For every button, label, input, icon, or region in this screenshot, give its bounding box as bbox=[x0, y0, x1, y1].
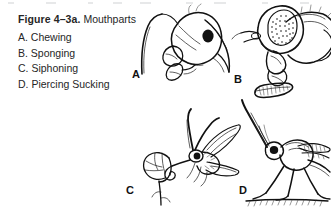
list-item: D. Piercing Sucking bbox=[18, 77, 142, 93]
figure-subject: Mouthparts bbox=[83, 13, 136, 25]
butterfly-siphoning-illustration bbox=[133, 108, 241, 208]
figure-title: Figure 4–3a. Mouthparts bbox=[18, 13, 142, 26]
fly-head-sponging-illustration bbox=[228, 0, 331, 98]
panel-letter-c: C bbox=[126, 185, 134, 196]
figure-number: Figure 4–3a. bbox=[18, 13, 80, 25]
mouthpart-legend-list: A. Chewing B. Sponging C. Siphoning D. P… bbox=[18, 30, 142, 92]
figure-caption: Figure 4–3a. Mouthparts A. Chewing B. Sp… bbox=[18, 13, 142, 92]
list-item: A. Chewing bbox=[18, 30, 142, 46]
panel-letter-a: A bbox=[132, 69, 140, 80]
figure-page: Figure 4–3a. Mouthparts A. Chewing B. Sp… bbox=[0, 0, 331, 214]
panel-letter-d: D bbox=[239, 185, 247, 196]
list-item: B. Sponging bbox=[18, 46, 142, 62]
compound-eye-stipple bbox=[271, 15, 294, 45]
list-item: C. Siphoning bbox=[18, 61, 142, 77]
mosquito-piercing-sucking-illustration bbox=[236, 100, 331, 210]
panel-letter-b: B bbox=[234, 74, 242, 85]
